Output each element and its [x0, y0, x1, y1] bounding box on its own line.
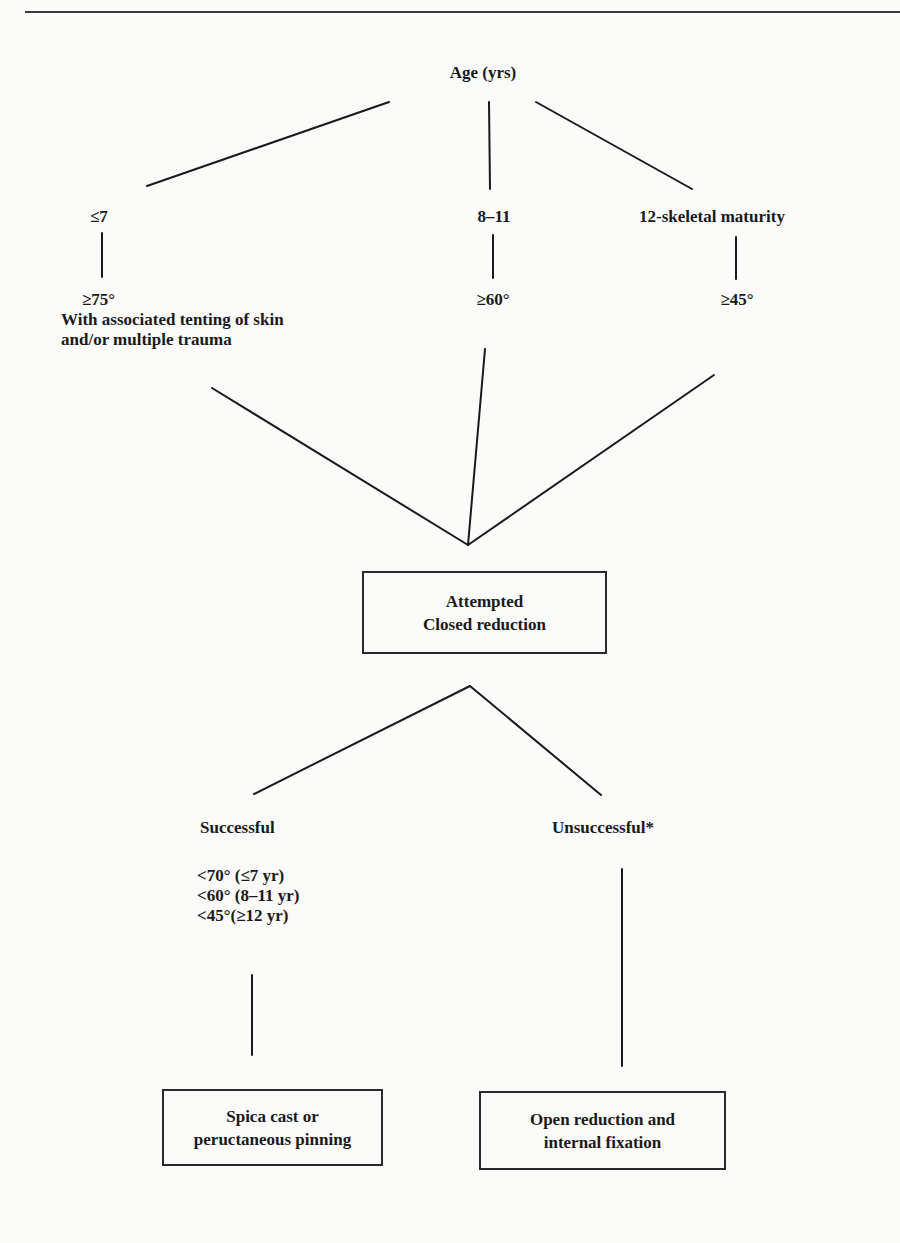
criteria-line-2: <60° (8–11 yr): [197, 886, 299, 906]
treatment-box-open-reduction: Open reduction and internal fixation: [479, 1091, 726, 1170]
outcome-successful-label: Successful: [200, 818, 275, 838]
decision-box-line2: Closed reduction: [423, 613, 546, 636]
edge-8-11-to-convergence: [468, 349, 485, 545]
threshold-12-label: ≥45°: [720, 290, 753, 310]
treatment-spica-line1: Spica cast or: [226, 1105, 319, 1128]
decision-box-closed-reduction: Attempted Closed reduction: [362, 571, 607, 654]
threshold-le7-note-line1: With associated tenting of skin: [61, 310, 284, 330]
treatment-orif-line1: Open reduction and: [530, 1108, 675, 1131]
edge-root-to-age-8-11: [489, 102, 490, 189]
threshold-8-11-label: ≥60°: [476, 290, 509, 310]
edge-decision-to-successful: [254, 686, 470, 794]
edge-root-to-age-le7: [147, 102, 389, 186]
threshold-le7-label: ≥75°: [82, 290, 115, 310]
outcome-unsuccessful-label: Unsuccessful*: [552, 818, 654, 838]
edge-root-to-age-12: [536, 102, 692, 189]
treatment-orif-line2: internal fixation: [544, 1131, 662, 1154]
decision-box-line1: Attempted: [446, 590, 523, 613]
criteria-line-1: <70° (≤7 yr): [197, 866, 284, 886]
edge-le7-to-convergence: [212, 388, 468, 545]
criteria-line-3: <45°(≥12 yr): [197, 906, 288, 926]
age-group-12-label: 12-skeletal maturity: [639, 207, 785, 227]
age-group-8-11-label: 8–11: [477, 207, 510, 227]
threshold-le7-note-line2: and/or multiple trauma: [61, 330, 232, 350]
root-age-label: Age (yrs): [450, 63, 517, 83]
edge-decision-to-unsuccessful: [470, 686, 601, 795]
edge-12-to-convergence: [468, 375, 714, 545]
age-group-le7-label: ≤7: [90, 207, 108, 227]
treatment-spica-line2: peructaneous pinning: [194, 1128, 351, 1151]
treatment-box-spica-cast: Spica cast or peructaneous pinning: [162, 1089, 383, 1166]
